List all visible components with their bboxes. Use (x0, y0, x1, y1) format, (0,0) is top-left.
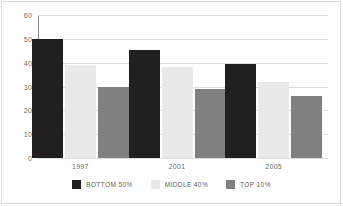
bars-group (38, 15, 328, 158)
bar (291, 96, 322, 158)
y-axis-tick-label: 30 (24, 83, 32, 90)
x-axis-tick-label: 1997 (72, 163, 89, 170)
bar (32, 39, 63, 158)
y-axis-tick-label: 60 (24, 12, 32, 19)
legend-item[interactable]: MIDDLE 40% (151, 180, 208, 189)
bar (129, 50, 160, 158)
legend-label: MIDDLE 40% (165, 181, 208, 188)
legend-swatch-icon (226, 180, 235, 189)
legend-item[interactable]: TOP 10% (226, 180, 271, 189)
bar (162, 67, 193, 158)
legend-label: BOTTOM 50% (86, 181, 133, 188)
legend-swatch-icon (72, 180, 81, 189)
y-axis-tick-label: 10 (24, 131, 32, 138)
legend-swatch-icon (151, 180, 160, 189)
legend-item[interactable]: BOTTOM 50% (72, 180, 133, 189)
x-axis-tick-label: 2001 (169, 163, 186, 170)
y-axis-tick-label: 40 (24, 59, 32, 66)
bar (98, 87, 129, 159)
bar (225, 64, 256, 158)
bar (65, 65, 96, 158)
plot-area: 0102030405060 199720012005 (38, 15, 328, 158)
legend-label: TOP 10% (240, 181, 271, 188)
y-axis-tick-label: 50 (24, 35, 32, 42)
gridline (38, 158, 328, 159)
bar (258, 82, 289, 158)
bar (195, 89, 226, 158)
chart-legend: BOTTOM 50%MIDDLE 40%TOP 10% (0, 180, 343, 189)
y-axis-tick-label: 20 (24, 107, 32, 114)
bar-chart: 0102030405060 199720012005 BOTTOM 50%MID… (0, 0, 343, 206)
x-axis-tick-label: 2005 (265, 163, 282, 170)
